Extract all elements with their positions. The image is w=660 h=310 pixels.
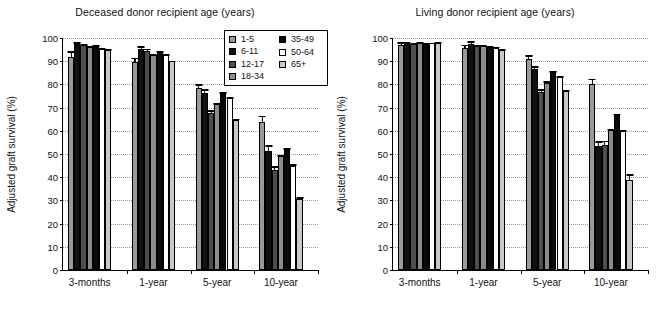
x-tick-mark: [191, 270, 192, 274]
bar: [296, 199, 302, 270]
y-tick-label: 40: [24, 172, 63, 183]
y-axis-label-text: Adjusted graft survival (%): [6, 96, 17, 213]
error-bar: [531, 66, 538, 69]
error-bar: [492, 47, 499, 48]
legend-item: 65+: [279, 59, 323, 70]
error-bar: [259, 116, 266, 122]
error-bar-cap: [201, 89, 208, 91]
chart-panel-deceased-donor: Deceased donor recipient age (years) Adj…: [0, 0, 330, 310]
bar-group: [457, 38, 521, 270]
error-bar: [435, 42, 442, 43]
error-bar: [550, 71, 557, 72]
y-tick-label: 30: [354, 195, 393, 206]
error-bar: [290, 164, 297, 165]
x-tick-label: 5-year: [203, 277, 231, 288]
y-tick-label: 20: [354, 218, 393, 229]
y-tick-label: 70: [354, 102, 393, 113]
error-bar-cap: [232, 119, 239, 121]
legend-swatch-icon: [229, 36, 236, 43]
error-bar: [156, 51, 163, 52]
x-tick-label: 10-year: [264, 277, 298, 288]
legend-swatch-icon: [229, 73, 236, 80]
error-bar-cap: [296, 197, 303, 199]
bar: [169, 61, 175, 270]
bar-group: [393, 38, 457, 270]
legend-swatch-icon: [229, 61, 236, 68]
error-bar-cap: [284, 148, 291, 150]
y-axis-label-text: Adjusted graft survival (%): [336, 96, 347, 213]
error-bar-cap: [220, 92, 227, 94]
error-bar-cap: [195, 84, 202, 86]
x-tick-mark: [318, 270, 319, 274]
x-tick-mark: [457, 270, 458, 274]
legend-item: 35-49: [279, 34, 323, 45]
bar-group: [127, 38, 191, 270]
error-bar-cap: [550, 71, 557, 73]
error-bar-cap: [156, 51, 163, 53]
legend-label: 12-17: [241, 60, 264, 69]
y-axis-label-deceased: Adjusted graft survival (%): [4, 38, 18, 270]
legend-swatch-icon: [229, 48, 236, 55]
error-bar: [105, 49, 112, 50]
bar: [233, 120, 239, 270]
error-bar-cap: [169, 61, 176, 63]
error-bar: [626, 174, 633, 179]
x-tick-label: 1-year: [139, 277, 167, 288]
y-tick-label: 0: [354, 265, 393, 276]
bar: [626, 180, 632, 270]
legend-label: 50-64: [291, 48, 314, 57]
bar-group: [584, 38, 648, 270]
error-bar-cap: [468, 41, 475, 43]
error-bar-cap: [435, 42, 442, 44]
error-bar: [620, 130, 627, 131]
legend-label: 6-11: [241, 47, 258, 56]
legend-swatch-icon: [279, 61, 286, 68]
error-bar: [195, 84, 202, 88]
error-bar-cap: [614, 114, 621, 116]
y-tick-label: 70: [24, 102, 63, 113]
y-tick-label: 80: [24, 79, 63, 90]
y-tick-label: 60: [354, 125, 393, 136]
y-tick-label: 30: [24, 195, 63, 206]
error-bar: [614, 114, 621, 115]
bar: [435, 43, 441, 270]
error-bar: [226, 97, 233, 98]
x-tick-label: 10-year: [594, 277, 628, 288]
error-bar-cap: [589, 79, 596, 81]
x-tick-mark: [584, 270, 585, 274]
error-bar-cap: [620, 130, 627, 132]
error-bar-cap: [259, 116, 266, 118]
legend-swatch-icon: [279, 49, 286, 56]
x-tick-mark: [648, 270, 649, 274]
plot-area-living: 01020304050607080901003-months1-year5-ye…: [392, 38, 648, 271]
x-tick-mark: [521, 270, 522, 274]
bar-group: [63, 38, 127, 270]
error-bar: [265, 145, 272, 151]
error-bar-cap: [499, 49, 506, 51]
error-bar-cap: [562, 90, 569, 92]
bar: [499, 50, 505, 270]
chart-title-deceased: Deceased donor recipient age (years): [0, 6, 330, 18]
error-bar-cap: [92, 45, 99, 47]
error-bar-cap: [626, 174, 633, 176]
error-bar: [201, 89, 208, 92]
bar-group: [521, 38, 585, 270]
x-tick-label: 3-months: [399, 277, 441, 288]
error-bar-cap: [556, 76, 563, 78]
error-bar-cap: [162, 54, 169, 56]
error-bar: [499, 49, 506, 50]
y-tick-label: 10: [354, 241, 393, 252]
y-tick-label: 50: [354, 149, 393, 160]
error-bar: [162, 54, 169, 55]
error-bar: [220, 92, 227, 93]
error-bar: [169, 61, 176, 62]
legend-item: 18-34: [229, 71, 275, 82]
legend-item: 6-11: [229, 46, 275, 57]
y-tick-label: 0: [24, 265, 63, 276]
error-bar-cap: [105, 49, 112, 51]
chart-title-living: Living donor recipient age (years): [330, 6, 660, 18]
y-tick-label: 100: [24, 33, 63, 44]
x-tick-label: 1-year: [469, 277, 497, 288]
y-tick-label: 40: [354, 172, 393, 183]
y-tick-label: 90: [354, 56, 393, 67]
